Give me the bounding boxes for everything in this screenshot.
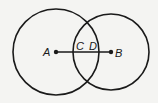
label-b: B [115, 48, 122, 59]
label-c: C [76, 41, 84, 52]
geometry-diagram: A B C D [0, 0, 158, 103]
point-a-dot [54, 50, 58, 54]
label-d: D [89, 41, 97, 52]
point-b-dot [109, 50, 113, 54]
label-a: A [43, 47, 50, 58]
